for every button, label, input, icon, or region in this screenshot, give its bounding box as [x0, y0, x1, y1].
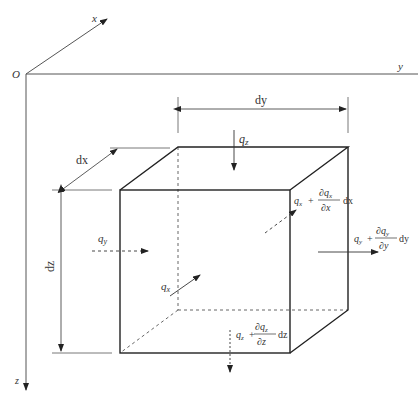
dimension-dz: dz — [43, 191, 112, 353]
dx-label: dx — [76, 153, 88, 167]
flux-qz-out: qz + ∂qz ∂z dz — [230, 321, 288, 372]
dimension-dx: dx — [52, 148, 170, 190]
svg-text:dz: dz — [278, 329, 288, 340]
svg-text:∂z: ∂z — [257, 336, 266, 347]
svg-text:∂x: ∂x — [321, 202, 331, 213]
svg-text:dy: dy — [399, 233, 409, 244]
svg-text:+: + — [367, 233, 373, 244]
coordinate-axes: O x y z — [12, 12, 418, 390]
control-volume-diagram: O x y z dy dx dz qz — [0, 0, 418, 403]
svg-text:dx: dx — [343, 195, 353, 206]
svg-text:qx: qx — [161, 280, 171, 294]
cube-hidden-edges — [120, 147, 348, 353]
flux-qx-out: qx + ∂qx ∂x dx — [265, 187, 353, 233]
dimension-dy: dy — [178, 93, 348, 133]
cube-side-face — [290, 147, 348, 353]
flux-qz-in: qz — [234, 130, 249, 170]
svg-text:qy: qy — [98, 232, 108, 246]
cube — [120, 147, 348, 353]
svg-text:∂qy: ∂qy — [376, 225, 390, 238]
dy-label: dy — [255, 93, 267, 107]
svg-text:∂qz: ∂qz — [255, 321, 268, 334]
x-axis — [26, 19, 107, 74]
dz-label: dz — [43, 261, 57, 272]
x-axis-label: x — [91, 12, 97, 24]
svg-text:qy: qy — [354, 233, 363, 246]
y-axis-label: y — [397, 60, 403, 72]
z-axis-label: z — [14, 375, 19, 386]
svg-text:∂qx: ∂qx — [319, 187, 333, 200]
svg-text:∂y: ∂y — [379, 240, 389, 251]
flux-qy-out: qy + ∂qy ∂y dy — [318, 225, 409, 252]
svg-text:qz: qz — [236, 329, 244, 342]
svg-text:+: + — [308, 195, 314, 206]
svg-text:qx: qx — [294, 195, 303, 208]
flux-qx-in: qx — [161, 275, 200, 296]
origin-label: O — [12, 68, 20, 80]
svg-text:qz: qz — [239, 132, 249, 147]
